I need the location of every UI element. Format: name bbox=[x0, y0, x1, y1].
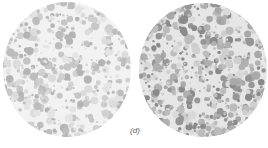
dot-pattern bbox=[3, 2, 131, 137]
color-plate-right bbox=[139, 3, 267, 137]
figure-caption: (d) bbox=[124, 126, 146, 135]
color-plate-left bbox=[3, 2, 131, 137]
dot-pattern bbox=[139, 3, 267, 137]
